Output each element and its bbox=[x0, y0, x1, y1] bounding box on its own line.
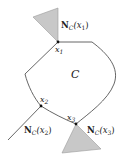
set-label: C bbox=[71, 68, 80, 81]
point-x3 bbox=[75, 123, 78, 126]
set-boundary bbox=[25, 42, 116, 124]
normal-cone-diagram: C x1 x2 x3 NC(x1) NC(x2) NC(x3) bbox=[0, 0, 129, 165]
label-normal-cone-x3: NC(x3) bbox=[87, 125, 115, 136]
point-x2 bbox=[40, 105, 43, 108]
label-x1: x1 bbox=[55, 45, 63, 55]
label-normal-cone-x1: NC(x1) bbox=[61, 20, 89, 31]
label-x2: x2 bbox=[40, 95, 49, 105]
normal-cone-x1 bbox=[33, 8, 58, 42]
label-x3: x3 bbox=[67, 113, 76, 123]
label-normal-cone-x2: NC(x2) bbox=[24, 125, 52, 136]
point-x1 bbox=[57, 41, 60, 44]
